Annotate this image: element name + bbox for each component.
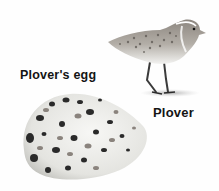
plover-bird-icon [108,20,206,97]
illustration: Plover's egg Plover [0,0,219,191]
plover-egg-icon [23,94,146,180]
illustration-art [0,0,219,191]
bird-label: Plover [153,105,194,120]
egg-label: Plover's egg [20,68,96,82]
